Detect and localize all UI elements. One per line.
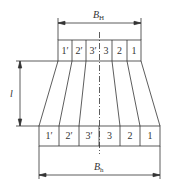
bottom-cell-label: 3 — [107, 130, 112, 141]
top-cell-label: 3′ — [89, 45, 96, 56]
bottom-cell-label: 3′ — [85, 130, 92, 141]
bottom-cell-label: 2′ — [65, 130, 72, 141]
strip-layout-diagram: BH Bh l 1′ 2′ 3′ 3 2 1 1′ 2′ 3′ 3 2 1 — [0, 0, 172, 188]
top-cell-label: 1 — [132, 45, 137, 56]
top-cell-label: 1′ — [61, 45, 68, 56]
bottom-dimension-label: Bh — [94, 161, 104, 174]
height-dimension — [16, 61, 58, 126]
top-cell-label: 2 — [117, 45, 122, 56]
top-dimension-label: BH — [93, 9, 104, 22]
bottom-cell-label: 1 — [148, 130, 153, 141]
bottom-cell-label: 2 — [128, 130, 133, 141]
top-cell-label: 3 — [104, 45, 109, 56]
height-dimension-label: l — [10, 88, 13, 99]
top-cell-label: 2′ — [75, 45, 82, 56]
bottom-cell-label: 1′ — [45, 130, 52, 141]
top-cell-labels: 1′ 2′ 3′ 3 2 1 — [61, 45, 136, 56]
